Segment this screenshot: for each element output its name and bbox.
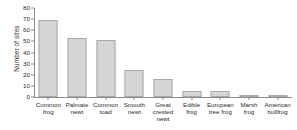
x-axis-tick-mark	[191, 97, 192, 100]
x-axis-tick-mark	[76, 97, 77, 100]
x-axis-tick-label-line: frog	[235, 108, 264, 115]
bar[interactable]	[67, 38, 86, 97]
bar-slot	[263, 8, 292, 97]
bar-slot	[34, 8, 63, 97]
y-axis-tick-label: 70	[0, 16, 34, 22]
bar-chart-figure: Number of sites 01020304050607080 Common…	[0, 0, 297, 130]
y-axis-tick-label: 50	[0, 38, 34, 44]
x-axis-tick-label: Ediblefrog	[177, 101, 206, 115]
y-axis-tick-label: 40	[0, 49, 34, 55]
y-axis-tick-label: 20	[0, 72, 34, 78]
bar[interactable]	[153, 79, 172, 97]
x-axis-tick-mark	[220, 97, 221, 100]
x-axis-tick-label: Marshfrog	[235, 101, 264, 115]
x-axis-tick-label-line: newt	[63, 108, 92, 115]
x-axis-tick-mark	[105, 97, 106, 100]
y-axis-tick-label: 60	[0, 27, 34, 33]
bar-slot	[235, 8, 264, 97]
x-axis-tick-label: Commonfrog	[34, 101, 63, 115]
y-axis-tick-label: 80	[0, 5, 34, 11]
x-axis-tick-label-line: newt	[149, 115, 178, 122]
x-axis-tick-mark	[134, 97, 135, 100]
x-axis-tick-label: Commontoad	[91, 101, 120, 115]
x-axis-tick-label-line: Marsh	[235, 101, 264, 108]
bar-slot	[177, 8, 206, 97]
bar-slot	[206, 8, 235, 97]
y-axis-tick-label: 30	[0, 61, 34, 67]
bar[interactable]	[125, 70, 144, 97]
x-axis-tick-label-line: crested	[149, 108, 178, 115]
y-axis-tick-label: 0	[0, 94, 34, 100]
bar[interactable]	[96, 40, 115, 97]
bar[interactable]	[39, 20, 58, 97]
x-axis-tick-label-line: European	[206, 101, 235, 108]
bar-slot	[120, 8, 149, 97]
plot-area: 01020304050607080	[34, 8, 292, 97]
x-axis-tick-label: Europeantree frog	[206, 101, 235, 115]
x-axis-tick-label-line: bullfrog	[263, 108, 292, 115]
x-axis-tick-label-line: toad	[91, 108, 120, 115]
x-axis-tick-label-line: newt	[120, 108, 149, 115]
bar-slot	[91, 8, 120, 97]
x-axis-tick-label: Greatcrestednewt	[149, 101, 178, 123]
bar-series	[34, 8, 292, 97]
x-axis-tick-mark	[162, 97, 163, 100]
x-axis-tick-label: Smoothnewt	[120, 101, 149, 115]
x-axis-tick-label-line: American	[263, 101, 292, 108]
bar-slot	[149, 8, 178, 97]
x-axis-tick-label-line: Palmate	[63, 101, 92, 108]
x-axis-tick-mark	[48, 97, 49, 100]
x-axis-tick-label-line: Smooth	[120, 101, 149, 108]
x-axis-tick-label: Americanbullfrog	[263, 101, 292, 115]
y-axis-tick-label: 10	[0, 83, 34, 89]
x-axis-tick-label-line: Common	[91, 101, 120, 108]
x-axis-tick-label-line: frog	[177, 108, 206, 115]
x-axis-tick-label-line: tree frog	[206, 108, 235, 115]
x-axis-tick-label-line: Common	[34, 101, 63, 108]
x-axis-tick-label-line: Edible	[177, 101, 206, 108]
bar-slot	[63, 8, 92, 97]
x-axis-tick-label: Palmatenewt	[63, 101, 92, 115]
x-axis-tick-label-line: frog	[34, 108, 63, 115]
x-axis-tick-mark	[277, 97, 278, 100]
x-axis-labels: CommonfrogPalmatenewtCommontoadSmoothnew…	[34, 101, 292, 130]
x-axis-tick-mark	[248, 97, 249, 100]
x-axis-tick-label-line: Great	[149, 101, 178, 108]
